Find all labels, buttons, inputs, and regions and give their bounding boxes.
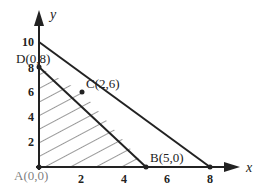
y-tick-4: 4 — [28, 110, 34, 124]
point-B — [144, 165, 149, 170]
label-B: B(5,0) — [150, 150, 184, 165]
y-axis-arrow-icon — [34, 10, 44, 26]
point-x8 — [208, 165, 213, 170]
x-tick-2: 2 — [78, 172, 84, 186]
x-tick-6: 6 — [164, 172, 170, 186]
label-A: A(0,0) — [14, 168, 48, 183]
y-tick-2: 2 — [28, 135, 34, 149]
x-axis-arrow-icon — [224, 162, 240, 172]
x-tick-8: 8 — [207, 172, 213, 186]
label-C: C(2,6) — [86, 76, 120, 91]
y-tick-6: 6 — [28, 85, 34, 99]
label-D: D(0,8) — [16, 51, 50, 66]
x-axis-label: x — [245, 160, 253, 175]
point-C — [80, 90, 85, 95]
linear-programming-diagram: x y 2 4 6 8 2 4 6 8 10 A(0,0) B(5,0) C(2… — [0, 0, 266, 193]
x-tick-4: 4 — [121, 172, 127, 186]
y-axis-label: y — [48, 7, 57, 22]
y-tick-10: 10 — [22, 35, 34, 49]
